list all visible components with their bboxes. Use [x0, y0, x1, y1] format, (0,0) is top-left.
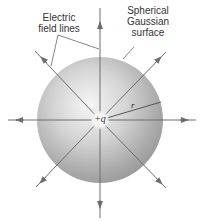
field-lines-label: Electric field lines [34, 12, 84, 34]
gaussian-surface-label: Spherical Gaussian surface [120, 5, 176, 38]
field-lines-label-line2: field lines [34, 23, 84, 34]
charge-label: +q [88, 113, 112, 124]
surface-label-line1: Spherical [120, 5, 176, 16]
surface-label-line2: Gaussian [120, 16, 176, 27]
radius-label: r [131, 100, 135, 110]
field-lines-label-line1: Electric [34, 12, 84, 23]
gaussian-sphere-diagram: Electric field lines Spherical Gaussian … [0, 0, 200, 221]
surface-label-line3: surface [120, 27, 176, 38]
